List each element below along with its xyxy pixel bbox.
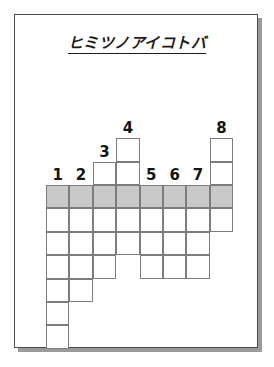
crossword-cell[interactable] <box>93 162 116 185</box>
crossword-cell[interactable] <box>186 255 209 278</box>
crossword-cell[interactable] <box>140 255 163 278</box>
crossword-cell-shaded[interactable] <box>186 185 209 208</box>
crossword-cell[interactable] <box>46 255 69 278</box>
crossword-cell[interactable] <box>69 208 92 231</box>
crossword-cell-shaded[interactable] <box>116 185 139 208</box>
column-number-6: 6 <box>163 168 186 183</box>
worksheet-page: ヒミツノアイコトバ 12345678 <box>0 0 274 367</box>
crossword-cell[interactable] <box>116 162 139 185</box>
crossword-cell[interactable] <box>140 208 163 231</box>
crossword-cell[interactable] <box>210 208 233 231</box>
crossword-cell-shaded[interactable] <box>163 185 186 208</box>
crossword-cell[interactable] <box>46 279 69 302</box>
crossword-cell[interactable] <box>116 232 139 255</box>
crossword-cell[interactable] <box>93 208 116 231</box>
column-number-4: 4 <box>116 121 139 136</box>
column-number-8: 8 <box>210 121 233 136</box>
column-number-5: 5 <box>140 168 163 183</box>
crossword-cell-shaded[interactable] <box>210 185 233 208</box>
crossword-cell[interactable] <box>163 255 186 278</box>
crossword-cell[interactable] <box>69 255 92 278</box>
crossword-cell-shaded[interactable] <box>140 185 163 208</box>
column-number-2: 2 <box>69 168 92 183</box>
crossword-cell[interactable] <box>93 232 116 255</box>
crossword-cell[interactable] <box>163 232 186 255</box>
crossword-cell[interactable] <box>69 279 92 302</box>
column-number-3: 3 <box>93 145 116 160</box>
crossword-cell-shaded[interactable] <box>69 185 92 208</box>
paper-sheet: ヒミツノアイコトバ 12345678 <box>14 14 258 348</box>
crossword-cell[interactable] <box>116 208 139 231</box>
crossword-cell[interactable] <box>93 255 116 278</box>
crossword-cell[interactable] <box>69 232 92 255</box>
crossword-cell-shaded[interactable] <box>46 185 69 208</box>
crossword-cell[interactable] <box>116 138 139 161</box>
crossword-cell[interactable] <box>163 208 186 231</box>
column-number-7: 7 <box>186 168 209 183</box>
column-number-1: 1 <box>46 168 69 183</box>
crossword-cell[interactable] <box>140 232 163 255</box>
crossword-cell-shaded[interactable] <box>93 185 116 208</box>
crossword-cell[interactable] <box>210 162 233 185</box>
crossword-cell[interactable] <box>46 232 69 255</box>
crossword-cell[interactable] <box>46 208 69 231</box>
crossword-cell[interactable] <box>210 138 233 161</box>
crossword-cell[interactable] <box>46 325 69 348</box>
crossword-cell[interactable] <box>46 302 69 325</box>
crossword-cell[interactable] <box>186 208 209 231</box>
crossword-cell[interactable] <box>186 232 209 255</box>
crossword-grid[interactable]: 12345678 <box>15 15 259 349</box>
